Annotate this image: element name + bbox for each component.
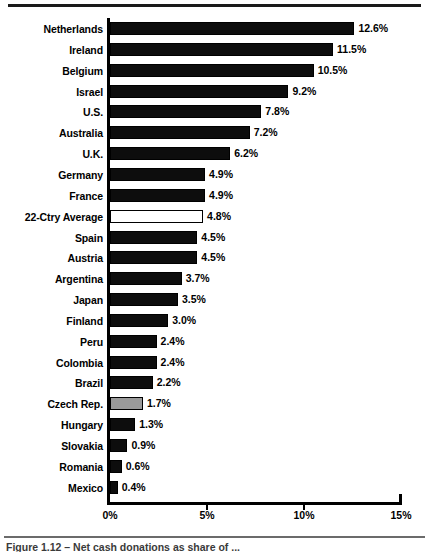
bar-row: Finland3.0% — [0, 311, 429, 331]
bar[interactable] — [110, 147, 230, 160]
category-label: Romania — [0, 457, 103, 477]
category-label: Argentina — [0, 269, 103, 289]
bar-row: U.S.7.8% — [0, 102, 429, 122]
bar[interactable] — [110, 439, 127, 452]
category-label: France — [0, 186, 103, 206]
bar-value-label: 6.2% — [234, 144, 258, 164]
bar[interactable] — [110, 210, 203, 223]
category-label: Hungary — [0, 415, 103, 435]
bar[interactable] — [110, 85, 288, 98]
category-label: Brazil — [0, 373, 103, 393]
bottom-divider — [4, 536, 425, 538]
bar-row: Hungary1.3% — [0, 415, 429, 435]
bar-row: Romania0.6% — [0, 457, 429, 477]
bar[interactable] — [110, 43, 333, 56]
bar[interactable] — [110, 126, 250, 139]
bar-value-label: 4.5% — [201, 228, 225, 248]
bar-value-label: 11.5% — [337, 40, 366, 60]
bar[interactable] — [110, 189, 205, 202]
bar-row: Netherlands12.6% — [0, 19, 429, 39]
bar-value-label: 3.0% — [172, 311, 196, 331]
bar-value-label: 1.3% — [139, 415, 163, 435]
bar-value-label: 4.9% — [209, 186, 233, 206]
bar-value-label: 2.4% — [161, 332, 185, 352]
bar-value-label: 12.6% — [358, 19, 388, 39]
bar[interactable] — [110, 376, 153, 389]
category-label: Finland — [0, 311, 103, 331]
category-label: Germany — [0, 165, 103, 185]
bar-value-label: 0.9% — [131, 436, 155, 456]
bar-value-label: 2.4% — [161, 353, 185, 373]
category-label: Spain — [0, 228, 103, 248]
bar[interactable] — [110, 293, 178, 306]
bar-value-label: 4.9% — [209, 165, 233, 185]
bar[interactable] — [110, 251, 197, 264]
bar-value-label: 3.5% — [182, 290, 206, 310]
category-label: Colombia — [0, 353, 103, 373]
bar-row: Peru2.4% — [0, 332, 429, 352]
bar-row: Belgium10.5% — [0, 61, 429, 81]
bar-value-label: 4.8% — [207, 207, 231, 227]
x-axis-tick-label: 0% — [90, 509, 130, 521]
category-label: Austria — [0, 248, 103, 268]
x-axis-tick-label: 15% — [381, 509, 421, 521]
figure-container: Netherlands12.6%Ireland11.5%Belgium10.5%… — [0, 0, 429, 552]
category-label: Czech Rep. — [0, 394, 103, 414]
bar-row: U.K.6.2% — [0, 144, 429, 164]
bar-value-label: 0.6% — [126, 457, 150, 477]
bar-value-label: 1.7% — [147, 394, 171, 414]
bar[interactable] — [110, 481, 118, 494]
bar-row: Germany4.9% — [0, 165, 429, 185]
bar-value-label: 2.2% — [157, 373, 181, 393]
bar-row: Israel9.2% — [0, 82, 429, 102]
x-axis-tick-label: 5% — [187, 509, 227, 521]
bar-row: France4.9% — [0, 186, 429, 206]
bar-chart-plot-area: Netherlands12.6%Ireland11.5%Belgium10.5%… — [0, 0, 429, 520]
category-label: Slovakia — [0, 436, 103, 456]
category-label: Australia — [0, 123, 103, 143]
bar[interactable] — [110, 168, 205, 181]
category-label: Peru — [0, 332, 103, 352]
bar[interactable] — [110, 418, 135, 431]
bar[interactable] — [110, 105, 261, 118]
bar-row: Colombia2.4% — [0, 353, 429, 373]
bar[interactable] — [110, 272, 182, 285]
category-label: Israel — [0, 82, 103, 102]
bar[interactable] — [110, 64, 314, 77]
bar-row: Brazil2.2% — [0, 373, 429, 393]
bar-row: Australia7.2% — [0, 123, 429, 143]
bar[interactable] — [110, 231, 197, 244]
bar-row: Austria4.5% — [0, 248, 429, 268]
category-label: Ireland — [0, 40, 103, 60]
bar-value-label: 4.5% — [201, 248, 225, 268]
bar-row: Ireland11.5% — [0, 40, 429, 60]
bar[interactable] — [110, 356, 157, 369]
bar[interactable] — [110, 335, 157, 348]
bar-row: Argentina3.7% — [0, 269, 429, 289]
category-label: Mexico — [0, 478, 103, 498]
bar-value-label: 7.2% — [254, 123, 278, 143]
bar-value-label: 7.8% — [265, 102, 289, 122]
bar-row: Japan3.5% — [0, 290, 429, 310]
bar-value-label: 9.2% — [292, 82, 316, 102]
category-label: 22-Ctry Average — [0, 207, 103, 227]
bar[interactable] — [110, 460, 122, 473]
bar-row: Spain4.5% — [0, 228, 429, 248]
bar-value-label: 10.5% — [318, 61, 348, 81]
bar-row: Mexico0.4% — [0, 478, 429, 498]
category-label: U.S. — [0, 102, 103, 122]
bar[interactable] — [110, 314, 168, 327]
bar-row: Slovakia0.9% — [0, 436, 429, 456]
bar[interactable] — [110, 22, 354, 35]
bar-row: 22-Ctry Average4.8% — [0, 207, 429, 227]
category-label: Belgium — [0, 61, 103, 81]
figure-caption: Figure 1.12 – Net cash donations as shar… — [6, 541, 426, 552]
category-label: Japan — [0, 290, 103, 310]
x-axis-line — [107, 502, 402, 505]
bar[interactable] — [110, 397, 143, 410]
bar-row: Czech Rep.1.7% — [0, 394, 429, 414]
category-label: U.K. — [0, 144, 103, 164]
category-label: Netherlands — [0, 19, 103, 39]
bar-value-label: 0.4% — [122, 478, 146, 498]
x-axis-tick-label: 10% — [284, 509, 324, 521]
